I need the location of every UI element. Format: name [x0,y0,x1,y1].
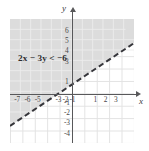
inequality-annotation: 2x − 3y < −6 [18,53,67,63]
y-tick-5: 5 [65,37,69,45]
y-tick-6: 6 [65,27,69,35]
y-tick--3: -3 [64,119,70,127]
x-tick--7: -7 [14,96,20,104]
inequality-graph-figure: x y -7 -6 -5 -3 -2 -1 1 2 3 6 5 4 3 1 -1… [0,0,149,151]
x-tick--5: -5 [35,96,41,104]
y-tick--4: -4 [64,130,70,138]
x-axis-label: x [139,97,143,106]
x-tick--6: -6 [25,96,31,104]
y-axis-arrow-icon [70,7,76,12]
x-tick-3: 3 [114,96,118,104]
y-tick--1: -1 [64,99,70,107]
x-tick-2: 2 [104,96,108,104]
x-tick--3: -3 [56,96,62,104]
inequality-text: 2x − 3y < −6 [18,53,67,63]
y-tick-1: 1 [65,78,69,86]
x-tick--1: -1 [70,96,76,104]
y-tick--2: -2 [64,109,70,117]
y-axis-label: y [62,4,66,13]
x-tick-1: 1 [94,96,98,104]
y-axis [72,12,73,143]
